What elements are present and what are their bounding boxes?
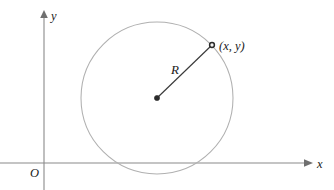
y-axis-arrowhead bbox=[40, 10, 48, 18]
boundary-point-dot bbox=[210, 43, 215, 48]
origin-label: O bbox=[30, 166, 39, 180]
boundary-point-label: (x, y) bbox=[219, 39, 245, 53]
figure-canvas: y x O R (x, y) bbox=[0, 0, 334, 190]
y-axis-label: y bbox=[49, 9, 57, 23]
circle-radius-figure: y x O R (x, y) bbox=[0, 0, 334, 190]
x-axis-label: x bbox=[316, 157, 323, 171]
circle-center-dot bbox=[154, 95, 159, 100]
radius-label: R bbox=[170, 62, 179, 77]
x-axis-arrowhead bbox=[304, 159, 313, 167]
radius-segment-line bbox=[157, 45, 212, 98]
